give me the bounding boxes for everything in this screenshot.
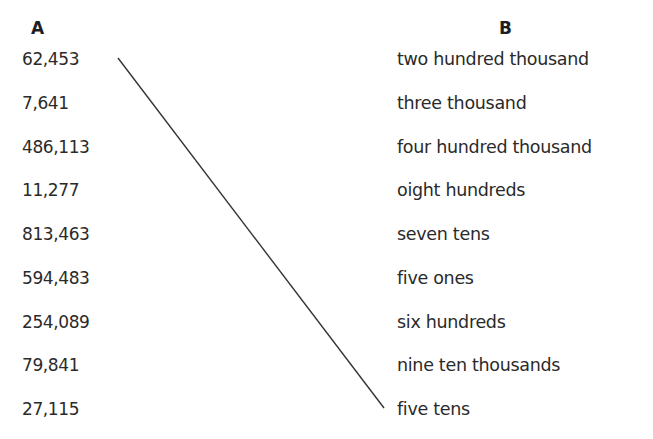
number-item[interactable]: 11,277 xyxy=(22,178,90,222)
place-value-item[interactable]: two hundred thousand xyxy=(397,47,592,91)
place-value-item[interactable]: four hundred thousand xyxy=(397,135,592,179)
number-item[interactable]: 62,453 xyxy=(22,47,90,91)
column-b-list: two hundred thousand three thousand four… xyxy=(397,47,592,439)
place-value-item[interactable]: five ones xyxy=(397,266,592,310)
place-value-item[interactable]: six hundreds xyxy=(397,310,592,354)
number-item[interactable]: 594,483 xyxy=(22,266,90,310)
number-item[interactable]: 27,115 xyxy=(22,397,90,439)
number-item[interactable]: 7,641 xyxy=(22,91,90,135)
place-value-item[interactable]: five tens xyxy=(397,397,592,439)
number-item[interactable]: 813,463 xyxy=(22,222,90,266)
number-item[interactable]: 254,089 xyxy=(22,310,90,354)
place-value-item[interactable]: nine ten thousands xyxy=(397,353,592,397)
place-value-item[interactable]: oight hundreds xyxy=(397,178,592,222)
connector-line xyxy=(118,58,384,408)
number-item[interactable]: 79,841 xyxy=(22,353,90,397)
column-a-list: 62,453 7,641 486,113 11,277 813,463 594,… xyxy=(22,47,90,439)
place-value-item[interactable]: three thousand xyxy=(397,91,592,135)
column-b-header: B xyxy=(499,19,512,37)
place-value-item[interactable]: seven tens xyxy=(397,222,592,266)
number-item[interactable]: 486,113 xyxy=(22,135,90,179)
column-a-header: A xyxy=(31,19,44,37)
